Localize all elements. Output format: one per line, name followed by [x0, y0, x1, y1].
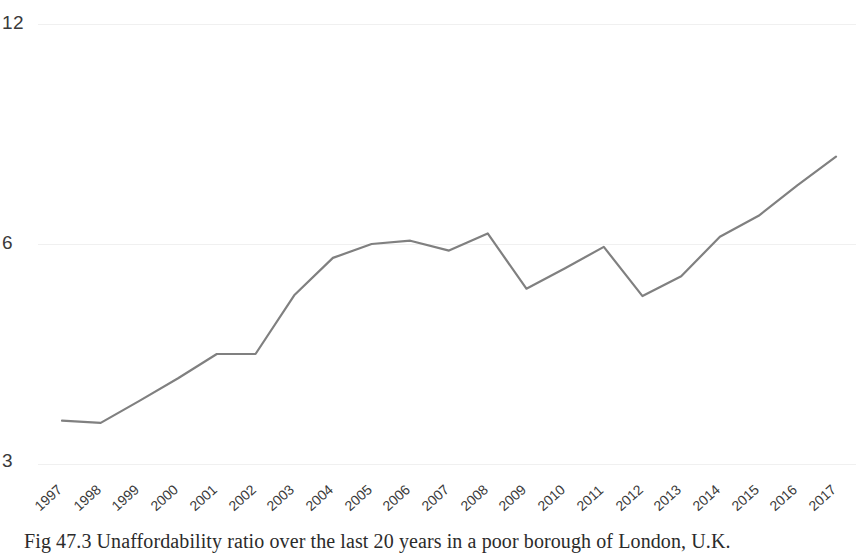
x-axis-tick-2000: 2000: [147, 481, 181, 514]
x-axis-tick-2007: 2007: [418, 481, 452, 514]
chart-svg: [0, 0, 858, 470]
x-axis-tick-2016: 2016: [767, 481, 801, 514]
x-axis-tick-2013: 2013: [650, 481, 684, 514]
x-axis-tick-2001: 2001: [186, 481, 220, 514]
x-axis-tick-2005: 2005: [341, 481, 375, 514]
x-axis: 1997199819992000200120022003200420052006…: [0, 468, 858, 530]
x-axis-tick-2009: 2009: [496, 481, 530, 514]
chart-page: 12 6 3 199719981999200020012002200320042…: [0, 0, 858, 555]
x-axis-tick-2017: 2017: [805, 481, 839, 514]
data-series-line: [62, 157, 836, 423]
x-axis-tick-1998: 1998: [70, 481, 104, 514]
x-axis-tick-2010: 2010: [534, 481, 568, 514]
x-axis-tick-2004: 2004: [302, 481, 336, 514]
x-axis-tick-2011: 2011: [573, 482, 606, 514]
x-axis-tick-2015: 2015: [728, 481, 762, 514]
x-axis-tick-1999: 1999: [109, 481, 143, 514]
x-axis-tick-2008: 2008: [457, 481, 491, 514]
x-axis-tick-2014: 2014: [689, 481, 723, 514]
x-axis-tick-2006: 2006: [380, 481, 414, 514]
figure-caption: Fig 47.3 Unaffordability ratio over the …: [24, 530, 854, 553]
x-axis-tick-1997: 1997: [31, 481, 65, 514]
x-axis-tick-2003: 2003: [263, 481, 297, 514]
x-axis-tick-2012: 2012: [612, 481, 646, 514]
plot-area: 12 6 3: [0, 0, 858, 470]
x-axis-tick-2002: 2002: [225, 481, 259, 514]
